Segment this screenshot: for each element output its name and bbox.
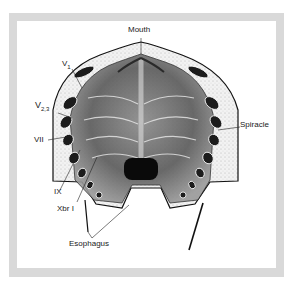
label-xbr1: Xbr I: [57, 205, 74, 213]
label-vii: VII: [34, 136, 44, 144]
label-v1: V1: [62, 60, 71, 70]
label-v1-sub: 1: [67, 64, 70, 70]
label-v23-sub: 2,3: [41, 106, 49, 112]
label-v23: V2,3: [35, 101, 49, 112]
head-shield-illustration: [0, 0, 303, 283]
label-ix: IX: [54, 188, 62, 196]
label-spiracle: Spiracle: [240, 121, 269, 129]
esophagus-opening: [124, 158, 158, 180]
label-mouth: Mouth: [128, 26, 150, 34]
label-esophagus: Esophagus: [69, 240, 109, 248]
